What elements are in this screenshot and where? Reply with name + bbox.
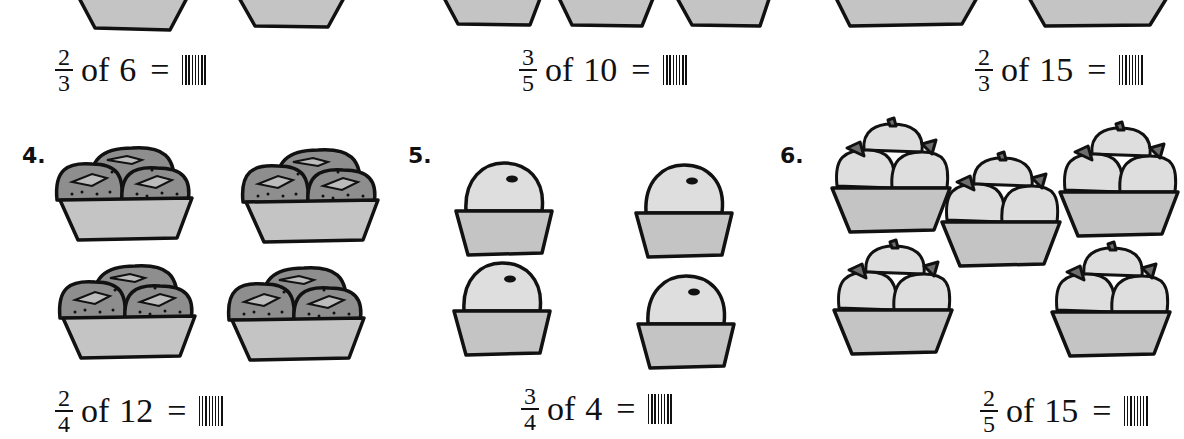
- fraction: 2 5: [980, 387, 998, 435]
- of-text: of: [545, 51, 573, 89]
- whole-number: 12: [119, 392, 153, 430]
- whole-number: 10: [583, 51, 617, 89]
- answer-blank[interactable]: [663, 55, 687, 85]
- equation-top-2: 3 5 of 10 =: [519, 46, 687, 94]
- of-text: of: [81, 392, 109, 430]
- of-text: of: [547, 390, 575, 428]
- answer-blank[interactable]: [182, 55, 206, 85]
- denominator: 3: [58, 72, 70, 94]
- whole-number: 15: [1039, 51, 1073, 89]
- denominator: 5: [522, 72, 534, 94]
- equation-problem-6: 2 5 of 15 =: [980, 387, 1148, 435]
- equals-sign: =: [167, 392, 186, 430]
- numerator: 2: [58, 387, 70, 409]
- answer-blank[interactable]: [1119, 55, 1143, 85]
- orange-baskets-picture: [400, 120, 800, 380]
- equals-sign: =: [1092, 392, 1111, 430]
- equals-sign: =: [1087, 51, 1106, 89]
- top-basket-bottoms: [0, 0, 1179, 40]
- strawberry-baskets-picture: [0, 120, 400, 380]
- fraction: 3 4: [521, 385, 539, 433]
- equation-problem-5: 3 4 of 4 =: [521, 385, 672, 433]
- fraction: 3 5: [519, 46, 537, 94]
- denominator: 3: [978, 72, 990, 94]
- equals-sign: =: [150, 51, 169, 89]
- denominator: 5: [983, 413, 995, 435]
- fraction: 2 4: [55, 387, 73, 435]
- numerator: 2: [978, 46, 990, 68]
- of-text: of: [1001, 51, 1029, 89]
- denominator: 4: [58, 413, 70, 435]
- numerator: 3: [524, 385, 536, 407]
- equation-top-1: 2 3 of 6 =: [55, 46, 206, 94]
- fraction: 2 3: [975, 46, 993, 94]
- numerator: 2: [983, 387, 995, 409]
- numerator: 2: [58, 46, 70, 68]
- numerator: 3: [522, 46, 534, 68]
- equation-top-3: 2 3 of 15 =: [975, 46, 1143, 94]
- equals-sign: =: [631, 51, 650, 89]
- answer-blank[interactable]: [648, 394, 672, 424]
- equals-sign: =: [616, 390, 635, 428]
- answer-blank[interactable]: [1124, 396, 1148, 426]
- of-text: of: [1006, 392, 1034, 430]
- whole-number: 4: [585, 390, 602, 428]
- fraction: 2 3: [55, 46, 73, 94]
- answer-blank[interactable]: [199, 396, 223, 426]
- apple-baskets-picture: [790, 110, 1184, 380]
- whole-number: 6: [119, 51, 136, 89]
- of-text: of: [81, 51, 109, 89]
- equation-problem-4: 2 4 of 12 =: [55, 387, 223, 435]
- whole-number: 15: [1044, 392, 1078, 430]
- denominator: 4: [524, 411, 536, 433]
